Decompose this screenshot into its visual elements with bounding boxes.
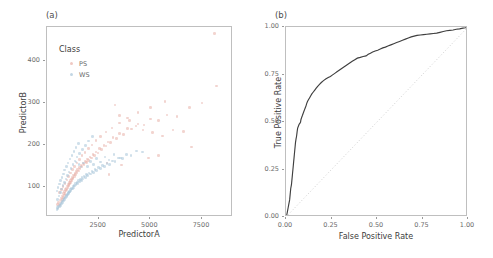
scatter-point [188, 106, 191, 109]
scatter-point [95, 169, 98, 172]
x-tick-mark [376, 217, 377, 219]
scatter-point [122, 133, 125, 136]
scatter-point [87, 140, 90, 143]
scatter-point [81, 148, 84, 151]
x-tick-mark [467, 217, 468, 219]
scatter-point [81, 154, 84, 157]
legend-items: PSWS [59, 58, 90, 80]
x-tick-label: 2500 [86, 221, 110, 229]
scatter-point [61, 176, 64, 179]
scatter-point [63, 169, 66, 172]
y-tick-label: 0.75 [257, 70, 279, 78]
scatter-point [71, 154, 74, 157]
x-tick-label: 1.00 [455, 221, 479, 229]
legend-item[interactable]: WS [67, 69, 90, 80]
scatter-point [108, 159, 111, 162]
scatter-point [149, 106, 152, 109]
scatter-point [118, 122, 121, 125]
scatter-point [215, 85, 218, 88]
scatter-point [164, 100, 167, 103]
scatter-point [109, 141, 112, 144]
x-tick-label: 0.75 [410, 221, 434, 229]
scatter-point [149, 118, 152, 121]
scatter-point [130, 154, 133, 157]
y-tick-label: 1.00 [257, 22, 279, 30]
scatter-point [105, 131, 108, 134]
y-tick-mark [43, 186, 45, 187]
scatter-point [90, 157, 93, 160]
y-tick-label: 100 [20, 182, 40, 190]
y-tick-label: 0.25 [257, 165, 279, 173]
scatter-point [67, 162, 70, 165]
panel-a-x-axis-title: PredictorA [46, 230, 232, 239]
x-tick-mark [422, 217, 423, 219]
x-tick-mark [285, 217, 286, 219]
scatter-point [151, 131, 154, 134]
scatter-point [104, 156, 107, 159]
scatter-point [95, 139, 98, 142]
scatter-point [99, 135, 102, 138]
scatter-point [100, 148, 103, 151]
y-tick-label: 400 [20, 56, 40, 64]
scatter-point [69, 158, 72, 161]
y-tick-mark [282, 216, 284, 217]
scatter-point [201, 102, 204, 105]
scatter-point [213, 32, 216, 35]
scatter-point [77, 142, 80, 145]
scatter-point [166, 114, 169, 117]
scatter-point [182, 130, 185, 133]
scatter-point [157, 154, 160, 157]
legend-item[interactable]: PS [67, 58, 90, 69]
scatter-point [118, 132, 121, 135]
x-tick-label: 5000 [137, 221, 161, 229]
scatter-point [65, 165, 68, 168]
scatter-point [87, 147, 90, 150]
scatter-point [118, 114, 121, 117]
scatter-point [93, 154, 96, 157]
y-tick-label: 0.50 [257, 117, 279, 125]
scatter-point [147, 157, 150, 160]
x-tick-mark [98, 217, 99, 219]
scatter-point [59, 179, 62, 182]
scatter-point [66, 174, 69, 177]
x-tick-label: 0.50 [364, 221, 388, 229]
scatter-point [126, 127, 129, 130]
scatter-point [135, 125, 138, 128]
x-tick-mark [331, 217, 332, 219]
y-tick-mark [282, 169, 284, 170]
scatter-point [73, 150, 76, 153]
scatter-point [119, 157, 122, 160]
x-tick-label: 0.25 [319, 221, 343, 229]
x-tick-label: 7500 [189, 221, 213, 229]
scatter-point [75, 146, 78, 149]
scatter-point [95, 157, 98, 160]
panel-a-scatter: (a) PredictorB PredictorA Class PSWS 250… [0, 0, 246, 258]
scatter-point [137, 111, 140, 114]
scatter-point [97, 152, 100, 155]
y-tick-mark [43, 102, 45, 103]
scatter-point [62, 173, 65, 176]
legend-item-label: PS [79, 60, 87, 68]
scatter-point [111, 127, 114, 130]
scatter-point [125, 153, 128, 156]
legend-item-label: WS [79, 71, 90, 79]
scatter-point [137, 123, 140, 126]
panel-a-plot-area: Class PSWS [46, 26, 232, 216]
scatter-point [84, 144, 87, 147]
y-tick-label: 0.00 [257, 212, 279, 220]
panel-b-tag: (b) [275, 10, 287, 20]
scatter-point [115, 137, 118, 140]
roc-curve-svg [286, 27, 467, 216]
scatter-point [105, 145, 108, 148]
scatter-point [130, 128, 133, 131]
scatter-point [172, 129, 175, 132]
scatter-point [91, 144, 94, 147]
chance-diagonal-line [286, 27, 467, 216]
legend-title: Class [59, 45, 90, 54]
legend-key-ws-icon [67, 70, 76, 79]
roc-curve-line [286, 27, 467, 216]
scatter-point [72, 163, 75, 166]
scatter-point [59, 191, 62, 194]
scatter-point [161, 135, 164, 138]
y-tick-label: 200 [20, 140, 40, 148]
